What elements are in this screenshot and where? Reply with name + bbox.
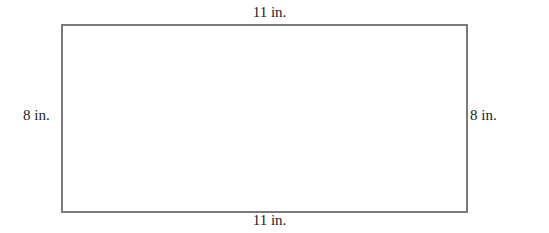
left-side-label: 8 in. [23, 107, 50, 124]
bottom-side-label: 11 in. [0, 212, 544, 229]
rectangle-shape [61, 24, 468, 213]
right-side-label: 8 in. [470, 107, 497, 124]
top-side-label: 11 in. [0, 4, 544, 21]
